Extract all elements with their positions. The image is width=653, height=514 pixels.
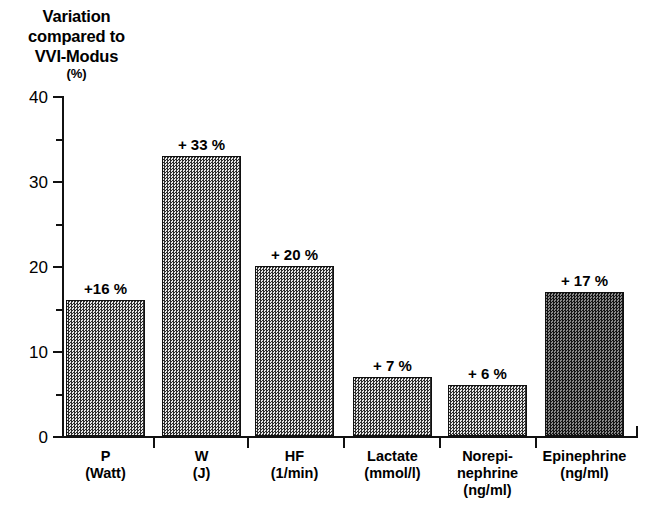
y-axis-tick-mark [53, 351, 62, 353]
chart-title-line-3: VVI-Modus [4, 46, 149, 66]
bar-value-label: + 6 % [468, 366, 507, 382]
chart-title-line-2: compared to [4, 26, 149, 46]
bar-value-label: + 7 % [373, 358, 412, 374]
bar-value-label: + 20 % [271, 247, 318, 263]
chart-title: Variation compared to VVI-Modus [4, 6, 149, 66]
bar: + 20 % [255, 266, 334, 436]
x-axis-end-tick [636, 426, 638, 438]
y-axis-unit-label: (%) [4, 66, 149, 81]
plot-area: 010203040 +16 %+ 33 %+ 20 %+ 7 %+ 6 %+ 1… [62, 96, 638, 438]
category-label-line: Epinephrine [505, 448, 653, 465]
y-axis-tick-mark [53, 96, 62, 98]
y-axis-tick-minor [56, 224, 62, 226]
y-axis-tick-label: 0 [39, 429, 48, 446]
y-axis-tick-mark [53, 181, 62, 183]
y-axis-tick-label: 30 [29, 174, 48, 191]
y-axis-tick-mark [53, 266, 62, 268]
x-axis-tick-mark [153, 438, 155, 448]
bar: +16 % [66, 300, 145, 436]
chart-title-line-1: Variation [4, 6, 149, 26]
y-axis-tick-label: 20 [29, 259, 48, 276]
y-axis-tick-label: 40 [29, 89, 48, 106]
x-axis-line [62, 436, 638, 438]
x-axis-category-label: Epinephrine(ng/ml) [505, 448, 653, 482]
category-label-line: (ng/ml) [408, 482, 568, 499]
bar: + 33 % [162, 156, 241, 437]
bar-chart: Variation compared to VVI-Modus (%) 0102… [0, 0, 653, 514]
y-axis-tick-minor [56, 309, 62, 311]
bar: + 7 % [353, 377, 432, 437]
y-axis-tick-minor [56, 139, 62, 141]
bar: + 17 % [545, 292, 624, 437]
x-axis-tick-mark [343, 438, 345, 448]
bar-value-label: + 33 % [178, 137, 225, 153]
y-axis-tick-minor [56, 394, 62, 396]
category-label-line: (ng/ml) [505, 465, 653, 482]
x-axis-tick-mark [247, 438, 249, 448]
y-axis-line [62, 96, 64, 438]
bar-value-label: +16 % [84, 281, 127, 297]
bar-value-label: + 17 % [561, 273, 608, 289]
y-axis-tick-label: 10 [29, 344, 48, 361]
bar: + 6 % [448, 385, 527, 436]
x-axis-tick-mark [535, 438, 537, 448]
y-axis-tick-mark [53, 436, 62, 438]
x-axis-tick-mark [439, 438, 441, 448]
